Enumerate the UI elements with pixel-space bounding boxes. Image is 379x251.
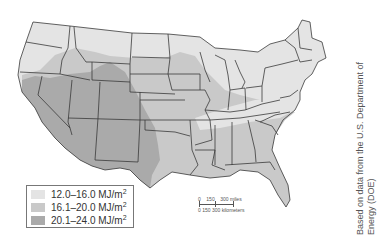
legend-item-low: 12.0–16.0 MJ/m2 [31, 188, 129, 201]
credit-line-2: Energy (DOE) [366, 62, 377, 235]
scale-bar: 0 150 300 miles 0 150 300 kilometers [198, 196, 278, 220]
source-credit: Based on data from the U.S. Department o… [355, 62, 377, 235]
legend-swatch-low [31, 190, 45, 199]
legend-label: 12.0–16.0 MJ/m2 [51, 188, 127, 200]
legend-label: 20.1–24.0 MJ/m2 [51, 214, 127, 226]
credit-line-1: Based on data from the U.S. Department o… [355, 62, 366, 235]
legend-item-mid: 16.1–20.0 MJ/m2 [31, 201, 129, 214]
legend-swatch-mid [31, 203, 45, 212]
scale-miles-labels: 0 150 300 miles [198, 196, 242, 202]
legend-item-high: 20.1–24.0 MJ/m2 [31, 214, 129, 227]
legend-label: 16.1–20.0 MJ/m2 [51, 201, 127, 213]
legend: 12.0–16.0 MJ/m2 16.1–20.0 MJ/m2 20.1–24.… [26, 185, 134, 228]
legend-swatch-high [31, 216, 45, 225]
scale-km-labels: 0 150 300 kilometers [198, 207, 244, 213]
scale-line [199, 204, 233, 205]
